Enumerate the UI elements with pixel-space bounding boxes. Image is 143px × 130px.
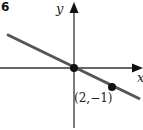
- y-axis-label: y: [56, 1, 63, 16]
- coordinate-diagram: 6 y x (2,−1): [0, 0, 143, 130]
- origin-point: [70, 64, 78, 72]
- problem-number: 6: [1, 0, 9, 14]
- y-axis-arrow-icon: [70, 2, 79, 13]
- point-2-neg1: [108, 83, 116, 91]
- x-axis-label: x: [137, 70, 143, 85]
- graph-svg: [0, 0, 143, 130]
- point-label: (2,−1): [74, 91, 113, 105]
